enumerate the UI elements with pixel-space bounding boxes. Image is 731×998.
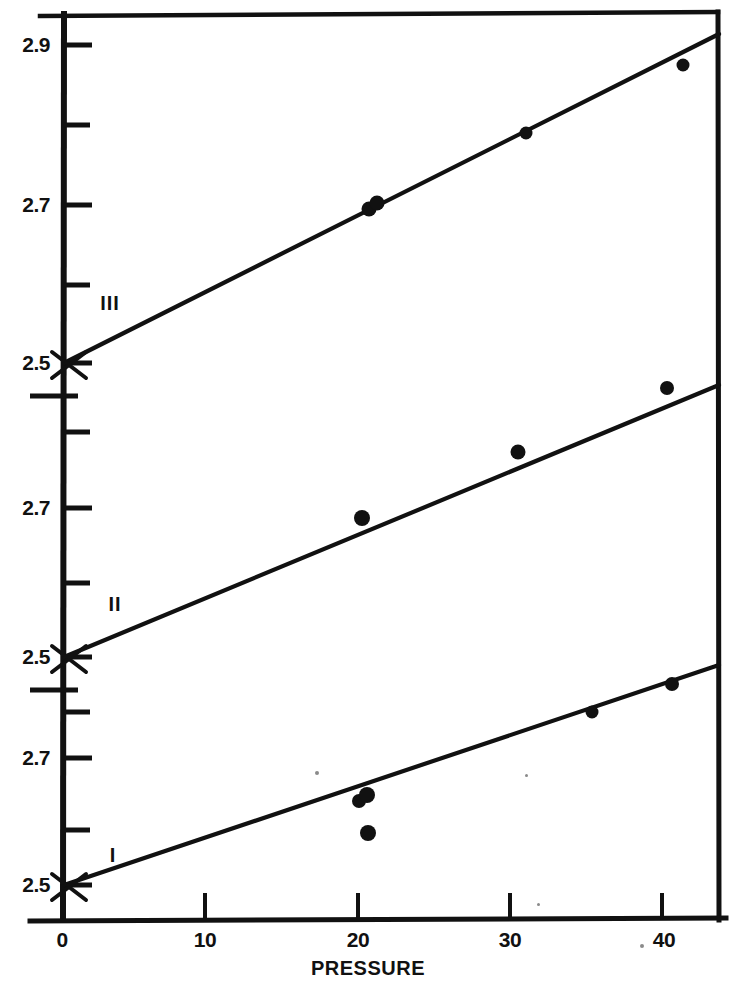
scan-speck xyxy=(640,944,644,948)
series-label-III: III xyxy=(100,292,120,315)
pressure-figure: 2.9 2.7 2.5 2.7 2.5 2.7 2.5 0 10 20 30 4… xyxy=(0,0,731,998)
x-tick-label: 30 xyxy=(499,928,521,952)
y-tick-label: 2.5 xyxy=(4,645,50,669)
fit-line-II xyxy=(64,385,719,657)
axis-frame xyxy=(30,12,726,921)
data-points-III xyxy=(362,59,690,217)
y-tick-label: 2.5 xyxy=(4,351,50,375)
y-axis-minor-ticks xyxy=(30,125,90,830)
y-tick-label: 2.5 xyxy=(4,873,50,897)
y-axis-major-ticks xyxy=(64,45,92,885)
y-tick-label: 2.9 xyxy=(4,33,50,57)
series-III xyxy=(52,34,719,378)
series-label-II: II xyxy=(108,593,121,616)
x-axis-ticks xyxy=(205,893,662,919)
y-tick-label: 2.7 xyxy=(4,746,50,770)
x-tick-label: 20 xyxy=(347,928,369,952)
x-tick-label: 40 xyxy=(653,928,675,952)
y-tick-label: 2.7 xyxy=(4,496,50,520)
x-tick-label: 10 xyxy=(194,928,216,952)
scan-speck xyxy=(525,774,528,777)
series-I xyxy=(52,665,719,900)
fit-line-I xyxy=(64,665,719,885)
fit-line-III xyxy=(64,34,719,363)
x-tick-label: 0 xyxy=(56,928,67,952)
x-axis-title: PRESSURE xyxy=(311,957,425,980)
scan-speck xyxy=(315,771,319,775)
data-points-II xyxy=(354,381,674,526)
series-II xyxy=(52,381,719,672)
y-tick-label: 2.7 xyxy=(4,193,50,217)
series-label-I: I xyxy=(110,844,117,867)
scan-speck xyxy=(537,903,540,906)
data-points-I xyxy=(352,677,679,841)
